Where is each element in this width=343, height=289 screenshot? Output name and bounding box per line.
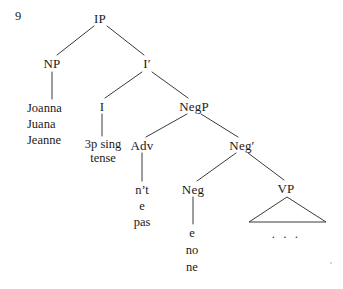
vp-triangle xyxy=(249,197,326,222)
tree-node-neg: Neg xyxy=(182,183,204,196)
np-leaf-words-item: Joanna xyxy=(27,102,62,115)
branch-negp-to-adv xyxy=(146,114,187,137)
syntax-tree-figure: 9 IP NP I′ I NegP Adv Neg′ Neg VP Joanna… xyxy=(0,0,343,289)
scan-speck xyxy=(330,262,332,264)
np-leaf-words-item: Jeanne xyxy=(27,134,61,147)
tree-node-vp: VP xyxy=(277,182,294,195)
i-leaf-words-item: tense xyxy=(90,152,116,165)
branch-ip-to-np xyxy=(57,26,94,55)
tree-node-adv: Adv xyxy=(131,139,154,152)
tree-node-i-bar: I′ xyxy=(143,57,151,70)
branch-ibar-to-i xyxy=(105,72,142,98)
adv-leaf-words-item: e xyxy=(139,200,145,213)
neg-leaf-words-item: e xyxy=(189,227,195,240)
tree-node-i: I xyxy=(100,100,105,113)
branch-negbar-to-neg xyxy=(197,153,236,181)
branch-negbar-to-vp xyxy=(248,153,284,180)
np-leaf-words-item: Juana xyxy=(27,118,55,131)
adv-leaf-words-item: n’t xyxy=(135,184,149,197)
neg-leaf-words-item: ne xyxy=(186,261,198,274)
branch-negp-to-negbar xyxy=(201,114,238,137)
adv-leaf-words-item: pas xyxy=(134,216,151,229)
branch-ibar-to-negp xyxy=(152,72,188,98)
tree-node-ip: IP xyxy=(94,12,106,25)
vp-ellipsis-label: . . . xyxy=(272,227,301,240)
i-leaf-words-item: 3p sing xyxy=(85,138,121,151)
example-number: 9 xyxy=(15,10,21,23)
tree-node-np: NP xyxy=(43,57,60,70)
branch-ip-to-ibar xyxy=(107,26,144,55)
tree-node-negp: NegP xyxy=(179,100,209,113)
neg-leaf-words-item: no xyxy=(186,244,199,257)
tree-node-neg-bar: Neg′ xyxy=(229,139,254,152)
